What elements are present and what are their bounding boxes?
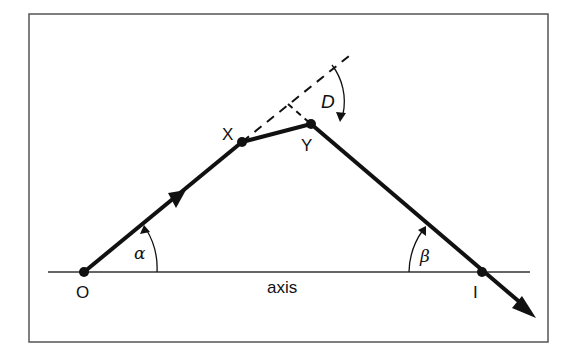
label-x: X xyxy=(222,125,233,144)
beta-arrow-icon xyxy=(418,226,426,236)
point-y xyxy=(306,119,316,129)
label-y: Y xyxy=(301,136,312,155)
point-i xyxy=(477,267,487,277)
emergent-ray xyxy=(311,124,522,304)
point-o xyxy=(79,267,89,277)
alpha-arc xyxy=(146,229,157,272)
label-alpha: α xyxy=(134,243,146,263)
deviation-arrow-icon xyxy=(336,112,346,122)
ray-diagram: O X Y I axis α β D xyxy=(0,0,574,358)
point-x xyxy=(237,137,247,147)
label-i: I xyxy=(473,283,478,302)
label-deviation: D xyxy=(321,91,335,112)
incident-ray xyxy=(84,142,242,272)
label-beta: β xyxy=(419,246,430,266)
label-axis: axis xyxy=(267,278,297,297)
label-o: O xyxy=(76,283,89,302)
